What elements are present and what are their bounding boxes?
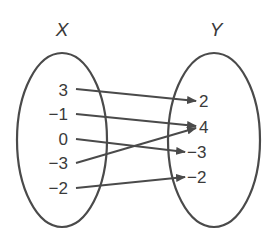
range-element: 4 <box>199 118 208 137</box>
arrow-neg3-to-4 <box>76 128 196 163</box>
domain-element: −3 <box>49 154 68 173</box>
set-label-x: X <box>55 19 70 40</box>
range-elements: 2 4 −3 −2 <box>187 92 208 187</box>
mapping-diagram: X Y 3 −1 0 −3 −2 2 4 −3 −2 <box>0 0 280 246</box>
domain-element: −2 <box>49 179 68 198</box>
range-element: −2 <box>187 168 206 187</box>
range-element: 2 <box>199 92 208 111</box>
arrow-3-to-2 <box>76 89 196 101</box>
arrow-neg1-to-4 <box>76 114 196 126</box>
range-set-ellipse <box>168 53 260 227</box>
domain-element: −1 <box>49 105 68 124</box>
domain-element: 0 <box>59 130 68 149</box>
domain-elements: 3 −1 0 −3 −2 <box>49 81 68 198</box>
range-element: −3 <box>187 143 206 162</box>
arrow-neg2-to-neg2 <box>76 177 185 188</box>
set-label-y: Y <box>210 19 224 40</box>
mapping-arrows <box>76 89 196 188</box>
domain-element: 3 <box>59 81 68 100</box>
